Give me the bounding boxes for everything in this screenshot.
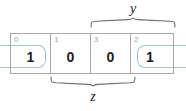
kmap-cell-index: 2 (134, 35, 138, 44)
kmap-grid: 0 1 1 0 3 0 2 1 (10, 33, 174, 74)
kmap-cell-index: 3 (94, 35, 98, 44)
kmap-cell-index: 1 (54, 35, 58, 44)
kmap-cell-3[interactable]: 3 0 (90, 33, 131, 74)
kmap-cell-value: 1 (131, 49, 169, 65)
kmap-cell-1[interactable]: 1 0 (50, 33, 91, 74)
variable-label-z: z (84, 90, 102, 104)
kmap-figure: y 0 1 1 0 3 0 2 1 z (0, 0, 186, 111)
kmap-cell-value: 1 (11, 49, 50, 65)
kmap-cell-0[interactable]: 0 1 (10, 33, 51, 74)
kmap-cell-value: 0 (91, 49, 130, 65)
variable-label-y: y (124, 2, 142, 16)
kmap-cell-2[interactable]: 2 1 (130, 33, 174, 74)
brace-y-icon (90, 18, 176, 28)
brace-z-icon (50, 76, 136, 86)
kmap-cell-value: 0 (51, 49, 90, 65)
kmap-cell-index: 0 (14, 35, 18, 44)
